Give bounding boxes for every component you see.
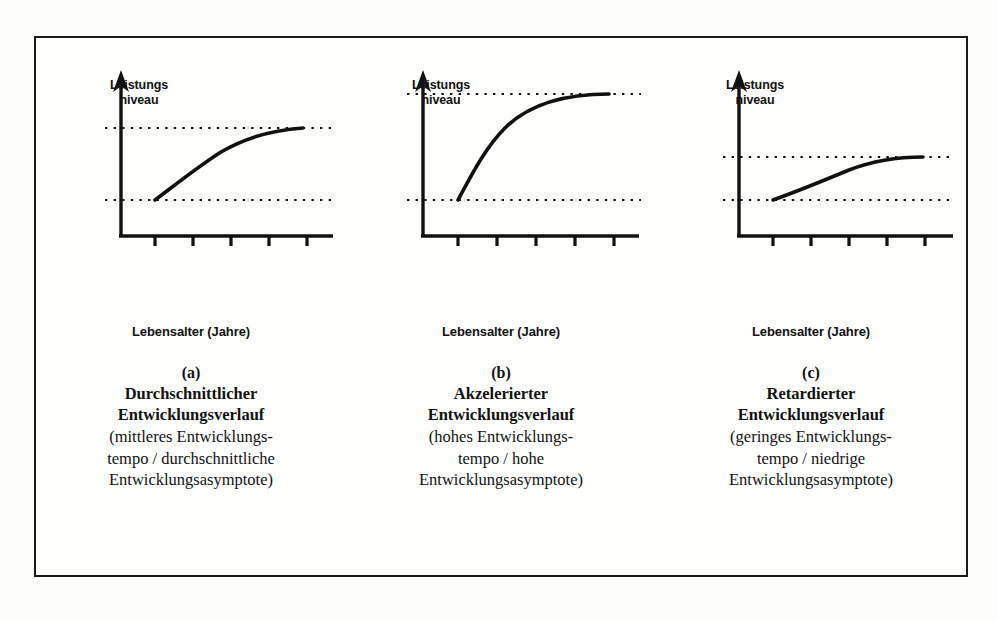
- chart-a: Leistungs niveau: [36, 56, 346, 346]
- x-axis-title: Lebensalter (Jahre): [36, 324, 346, 339]
- caption-c: (c) Retardierter Entwicklungsverlauf (ge…: [656, 362, 966, 491]
- growth-curve: [155, 128, 303, 200]
- caption-letter: (a): [36, 362, 346, 383]
- caption-subtitle: (geringes Entwicklungs- tempo / niedrige…: [656, 426, 966, 491]
- panel-c: Leistungs niveau: [656, 38, 966, 575]
- figure-page: Leistungs niveau: [0, 0, 997, 621]
- y-axis-title: Leistungs niveau: [700, 78, 810, 107]
- x-axis: [421, 236, 639, 246]
- caption-subtitle: (mittleres Entwicklungs- tempo / durchsc…: [36, 426, 346, 491]
- caption-letter: (c): [656, 362, 966, 383]
- caption-title: Durchschnittlicher Entwicklungsverlauf: [36, 383, 346, 425]
- x-axis-title: Lebensalter (Jahre): [346, 324, 656, 339]
- x-axis-title: Lebensalter (Jahre): [656, 324, 966, 339]
- growth-curve: [458, 94, 609, 200]
- caption-title: Retardierter Entwicklungsverlauf: [656, 383, 966, 425]
- caption-subtitle: (hohes Entwicklungs- tempo / hohe Entwic…: [346, 426, 656, 491]
- caption-a: (a) Durchschnittlicher Entwicklungsverla…: [36, 362, 346, 491]
- y-axis-title: Leistungs niveau: [84, 78, 194, 107]
- caption-b: (b) Akzelerierter Entwicklungsverlauf (h…: [346, 362, 656, 491]
- panel-b: Leistungs niveau: [346, 38, 656, 575]
- panel-a: Leistungs niveau: [36, 38, 346, 575]
- figure-frame: Leistungs niveau: [34, 36, 968, 577]
- chart-b: Leistungs niveau: [346, 56, 656, 346]
- caption-letter: (b): [346, 362, 656, 383]
- growth-curve: [773, 157, 923, 200]
- caption-title: Akzelerierter Entwicklungsverlauf: [346, 383, 656, 425]
- chart-c: Leistungs niveau: [656, 56, 966, 346]
- y-axis-title: Leistungs niveau: [386, 78, 496, 107]
- x-axis: [737, 236, 953, 246]
- panel-row: Leistungs niveau: [36, 38, 966, 575]
- x-axis: [119, 236, 333, 246]
